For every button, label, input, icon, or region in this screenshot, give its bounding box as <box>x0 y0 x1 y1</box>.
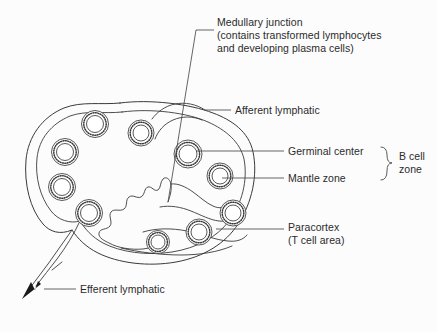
label-afferent-lymphatic: Afferent lymphatic <box>235 104 320 117</box>
follicle-group <box>49 111 247 254</box>
b-cell-zone-brace <box>381 147 392 180</box>
lymph-node-figure: Medullary junction (contains transformed… <box>0 0 437 332</box>
follicle-9 <box>186 219 212 245</box>
follicle-10 <box>147 231 170 254</box>
efferent-lymphatic-vessel-lower <box>36 221 80 286</box>
label-germinal-center: Germinal center <box>288 145 363 158</box>
label-medullary-junction: Medullary junction (contains transformed… <box>217 16 381 56</box>
follicle-3 <box>49 174 76 201</box>
follicle-5 <box>128 120 154 146</box>
follicle-1 <box>82 111 109 138</box>
efferent-lymphatic-arrowhead <box>22 281 41 299</box>
label-b-cell-zone: B cell zone <box>399 150 425 176</box>
follicle-6 <box>174 140 202 168</box>
follicle-8 <box>220 200 246 226</box>
afferent-lymphatic-vessel <box>152 103 205 119</box>
label-mantle-zone: Mantle zone <box>288 172 346 185</box>
follicle-4 <box>76 200 103 227</box>
label-paracortex: Paracortex (T cell area) <box>288 221 344 247</box>
efferent-lymphatic-vessel-upper <box>30 230 72 288</box>
medullary-sinus-branch-bottom <box>121 246 232 255</box>
follicle-7 <box>207 163 233 189</box>
label-efferent-lymphatic: Efferent lymphatic <box>80 283 165 296</box>
follicle-2 <box>52 139 79 166</box>
